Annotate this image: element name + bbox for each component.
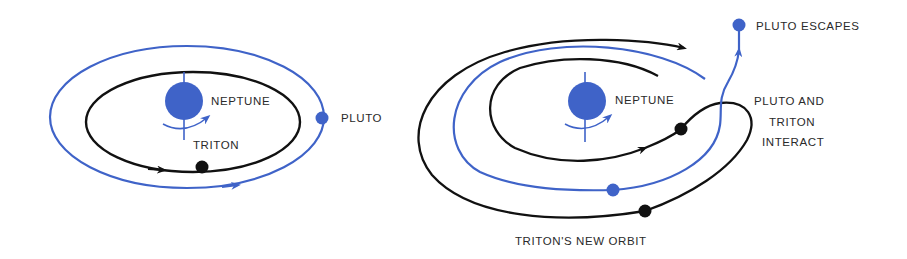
- triton-inner-orbit-continuation: [645, 130, 680, 148]
- new-orbit-label: TRITON'S NEW ORBIT: [515, 236, 647, 248]
- left-panel: [50, 46, 329, 188]
- orbit-diagram: [0, 0, 907, 259]
- triton-new-orbit-tail: [645, 103, 751, 211]
- triton-body-interact: [675, 123, 688, 136]
- pluto-body-escaped: [733, 19, 746, 32]
- pluto-escape-path: [613, 50, 739, 190]
- neptune-planet-right: [568, 82, 606, 120]
- neptune-planet: [165, 82, 203, 120]
- pluto-body-orbit: [607, 184, 620, 197]
- neptune-label: NEPTUNE: [211, 96, 270, 108]
- triton-label: TRITON: [193, 140, 239, 152]
- interact-label-line1: PLUTO AND: [754, 96, 824, 108]
- pluto-escapes-label: PLUTO ESCAPES: [756, 21, 859, 33]
- interact-label-line2: TRITON: [769, 117, 815, 129]
- interact-label-line3: INTERACT: [762, 137, 824, 149]
- pluto-label: PLUTO: [341, 113, 382, 125]
- triton-new-orbit: [418, 40, 684, 218]
- triton-orbit-arrow: [148, 169, 164, 170]
- triton-body: [196, 161, 209, 174]
- pluto-body: [316, 112, 329, 125]
- right-panel: [418, 19, 751, 218]
- neptune-label-right: NEPTUNE: [615, 95, 674, 107]
- triton-body-new-orbit: [639, 205, 652, 218]
